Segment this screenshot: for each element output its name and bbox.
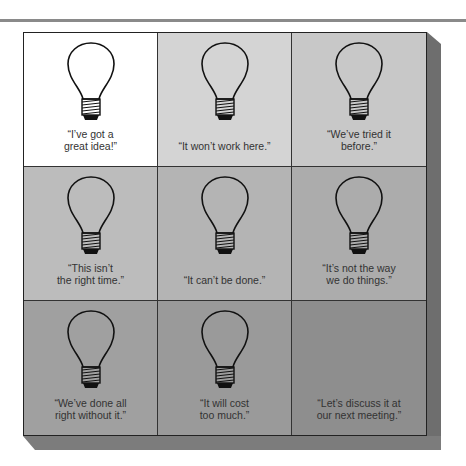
light-bulb-icon	[65, 175, 117, 263]
quote-line: “Let’s discuss it at	[292, 397, 426, 409]
grid-cell: “This isn’tthe right time.”	[24, 167, 158, 301]
quote-caption: “I’ve got agreat idea!”	[24, 128, 157, 152]
top-rule	[0, 19, 466, 22]
quote-line: “It will cost	[158, 397, 291, 409]
idea-killer-grid: “I’ve got agreat idea!” “It won’t work h…	[23, 32, 427, 436]
quote-line: before.”	[292, 140, 426, 152]
light-bulb-icon	[333, 41, 385, 129]
quote-caption: “This isn’tthe right time.”	[24, 262, 157, 286]
light-bulb-icon	[199, 175, 251, 263]
grid-cell: “It’s not the waywe do things.”	[292, 167, 426, 301]
light-bulb-icon	[199, 41, 251, 129]
box-side-right	[427, 32, 441, 436]
quote-caption: “Let’s discuss it atour next meeting.”	[292, 397, 426, 421]
light-bulb-icon	[65, 309, 117, 397]
quote-line: “I’ve got a	[24, 128, 157, 140]
quote-line: “We’ve done all	[24, 397, 157, 409]
grid-cell: “We’ve done allright without it.”	[24, 301, 158, 435]
box-side-bottom	[23, 436, 441, 450]
quote-caption: “It’s not the waywe do things.”	[292, 262, 426, 286]
light-bulb-icon	[65, 41, 117, 129]
grid-cell: “It can’t be done.”	[158, 167, 292, 301]
light-bulb-icon	[333, 175, 385, 263]
quote-line: great idea!”	[24, 140, 157, 152]
quote-line: “This isn’t	[24, 262, 157, 274]
quote-line: we do things.”	[292, 274, 426, 286]
quote-caption: “We’ve tried itbefore.”	[292, 128, 426, 152]
light-bulb-icon	[199, 309, 251, 397]
quote-line: our next meeting.”	[292, 409, 426, 421]
grid-cell: “We’ve tried itbefore.”	[292, 33, 426, 167]
grid-cell: “It will costtoo much.”	[158, 301, 292, 435]
quote-caption: “It will costtoo much.”	[158, 397, 291, 421]
quote-caption: “It won’t work here.”	[158, 140, 291, 152]
quote-caption: “We’ve done allright without it.”	[24, 397, 157, 421]
grid-cell: “It won’t work here.”	[158, 33, 292, 167]
quote-line: too much.”	[158, 409, 291, 421]
grid-cell: “Let’s discuss it atour next meeting.”	[292, 301, 426, 435]
quote-line: right without it.”	[24, 409, 157, 421]
quote-line: “It won’t work here.”	[158, 140, 291, 152]
quote-line: the right time.”	[24, 274, 157, 286]
quote-line: “It can’t be done.”	[158, 274, 291, 286]
quote-caption: “It can’t be done.”	[158, 274, 291, 286]
grid-cell: “I’ve got agreat idea!”	[24, 33, 158, 167]
quote-line: “It’s not the way	[292, 262, 426, 274]
quote-line: “We’ve tried it	[292, 128, 426, 140]
